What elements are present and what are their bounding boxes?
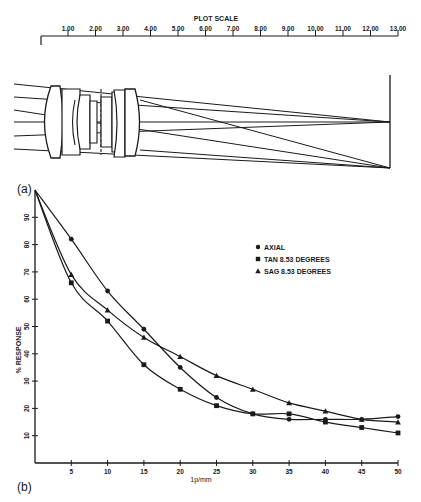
panel-label-a: (a) — [17, 182, 32, 196]
scale-tick-label: 9.00 — [282, 25, 295, 32]
scale-tick-label: 1.00 — [62, 25, 75, 32]
scale-tick-label: 13.00 — [390, 25, 407, 32]
y-axis-ticks: 102030405060708090 — [23, 213, 38, 439]
scale-tick-label: 5.00 — [172, 25, 185, 32]
y-tick-label: 80 — [23, 241, 30, 249]
lens-diagram — [14, 75, 390, 168]
legend-label: AXIAL — [264, 244, 286, 251]
panel-label-b: (b) — [17, 480, 32, 494]
plot-scale: PLOT SCALE 1.002.003.004.005.006.007.008… — [41, 15, 407, 45]
y-tick-label: 60 — [23, 295, 30, 303]
scale-tick-label: 7.00 — [227, 25, 240, 32]
x-tick-label: 15 — [140, 468, 148, 475]
series-triangle — [35, 190, 401, 424]
x-axis-label: 1p/mm — [190, 476, 212, 484]
y-tick-label: 50 — [23, 323, 30, 331]
legend-item: AXIAL — [256, 244, 286, 251]
x-tick-label: 10 — [104, 468, 112, 475]
x-tick-label: 40 — [322, 468, 330, 475]
y-tick-label: 30 — [23, 377, 30, 385]
x-tick-label: 45 — [358, 468, 366, 475]
x-tick-label: 20 — [177, 468, 185, 475]
scale-tick-label: 4.00 — [144, 25, 157, 32]
plot-scale-ticks: 1.002.003.004.005.006.007.008.009.0010.0… — [62, 25, 407, 36]
plot-scale-title: PLOT SCALE — [194, 15, 239, 22]
y-tick-label: 90 — [23, 213, 30, 221]
x-tick-label: 25 — [213, 468, 221, 475]
scale-tick-label: 10.00 — [307, 25, 324, 32]
scale-tick-label: 2.00 — [89, 25, 102, 32]
y-tick-label: 10 — [23, 432, 30, 440]
legend-label: TAN 8.53 DEGREES — [264, 256, 330, 263]
scale-tick-label: 8.00 — [254, 25, 267, 32]
x-axis-ticks: 5101520253035404550 — [69, 460, 402, 475]
scale-tick-label: 6.00 — [199, 25, 212, 32]
mtf-chart: 102030405060708090 5101520253035404550 %… — [15, 190, 402, 484]
y-axis-label: % RESPONSE — [15, 326, 22, 373]
x-tick-label: 50 — [394, 468, 402, 475]
x-tick-label: 35 — [285, 468, 293, 475]
legend-item: SAG 8.53 DEGREES — [255, 268, 331, 275]
legend-item: TAN 8.53 DEGREES — [256, 256, 330, 263]
scale-tick-label: 3.00 — [117, 25, 130, 32]
y-tick-label: 40 — [23, 350, 30, 358]
scale-tick-label: 11.00 — [335, 25, 351, 32]
y-tick-label: 70 — [23, 268, 30, 276]
y-tick-label: 20 — [23, 404, 30, 412]
lens-mtf-figure: PLOT SCALE 1.002.003.004.005.006.007.008… — [0, 0, 421, 502]
x-tick-label: 5 — [69, 468, 73, 475]
scale-tick-label: 12.00 — [362, 25, 379, 32]
x-tick-label: 30 — [249, 468, 257, 475]
series-group — [35, 190, 401, 435]
legend: AXIALTAN 8.53 DEGREESSAG 8.53 DEGREES — [255, 244, 331, 275]
legend-label: SAG 8.53 DEGREES — [264, 268, 331, 275]
